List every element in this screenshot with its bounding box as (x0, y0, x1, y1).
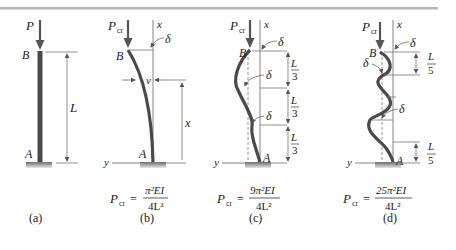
deflection-label: δ (266, 109, 272, 123)
top-label: B (116, 49, 124, 63)
critical-load-formula: P cr = π²EI 4L² (109, 184, 168, 212)
load-label: P (229, 18, 238, 33)
svg-text:L: L (290, 57, 297, 69)
deflection-label: δ (410, 36, 416, 50)
svg-text:L: L (427, 140, 434, 152)
top-rule (0, 7, 438, 10)
svg-text:cr: cr (352, 199, 359, 208)
svg-text:P: P (109, 191, 118, 206)
length-label: L (69, 100, 77, 115)
caption-d: (d) (383, 211, 397, 225)
svg-text:L: L (427, 50, 434, 62)
segment-label: L 3 (290, 131, 299, 156)
svg-text:=: = (363, 192, 370, 206)
deflection-label: δ (266, 68, 272, 82)
load-arrow-icon (246, 20, 255, 48)
top-label: B (22, 48, 30, 62)
svg-text:5: 5 (428, 64, 434, 76)
svg-text:3: 3 (292, 107, 298, 119)
load-sub: cr (371, 27, 378, 36)
panel-b: x y P cr B A δ v x P cr = (103, 18, 191, 225)
deflection-label: δ (363, 56, 369, 70)
panel-d: x y P cr B A δ δ δ L 5 (342, 18, 436, 225)
top-label: B (239, 46, 247, 60)
svg-text:=: = (237, 192, 244, 206)
bottom-label: A (24, 147, 33, 161)
svg-text:3: 3 (292, 70, 298, 82)
svg-text:P: P (216, 191, 225, 206)
svg-text:25π²EI: 25π²EI (376, 184, 408, 196)
v-label: v (146, 74, 151, 86)
svg-text:3: 3 (292, 144, 298, 156)
deflection-label: δ (278, 35, 284, 49)
buckled-column (369, 52, 393, 163)
axis-x-label: x (263, 18, 269, 30)
segment-label: L 5 (427, 50, 436, 76)
bottom-label: A (395, 154, 404, 168)
svg-text:L: L (290, 131, 297, 143)
bottom-label: A (138, 147, 147, 161)
x-dimension-label: x (184, 116, 191, 130)
load-label: P (361, 19, 370, 34)
svg-text:cr: cr (226, 199, 233, 208)
fixed-base (26, 162, 52, 168)
load-arrow-icon (36, 20, 45, 50)
segment-label: L 3 (290, 94, 299, 119)
straight-column (38, 51, 43, 163)
axis-y-label: y (103, 156, 109, 168)
svg-text:π²EI: π²EI (145, 184, 166, 196)
load-arrow-icon (124, 20, 133, 48)
svg-text:5: 5 (428, 154, 434, 166)
top-label: B (369, 46, 377, 60)
svg-text:=: = (130, 192, 137, 206)
axis-x-label: x (396, 18, 402, 30)
axis-y-label: y (346, 156, 352, 168)
svg-text:cr: cr (119, 199, 126, 208)
deflection-label: δ (399, 102, 405, 116)
load-label: P (107, 18, 116, 33)
segment-label: L 5 (427, 140, 436, 166)
column-buckling-figure: P B A L (a) x y P cr B A (0, 0, 456, 250)
buckled-column (236, 50, 260, 163)
load-sub: cr (117, 26, 124, 35)
caption-b: (b) (140, 211, 154, 225)
panel-a: P B A L (a) (22, 18, 78, 225)
caption-a: (a) (29, 211, 42, 225)
load-label: P (25, 18, 34, 33)
axis-x-label: x (156, 18, 162, 30)
critical-load-formula: P cr = 9π²EI 4L² (216, 184, 280, 212)
svg-text:L: L (290, 94, 297, 106)
svg-text:9π²EI: 9π²EI (250, 184, 276, 196)
panel-c: x y P cr B A δ δ δ L 3 (213, 18, 299, 225)
critical-load-formula: P cr = 25π²EI 4L² (342, 184, 412, 212)
deflection-label: δ (165, 32, 171, 46)
svg-text:P: P (342, 191, 351, 206)
caption-c: (c) (249, 211, 262, 225)
segment-label: L 3 (290, 57, 299, 82)
load-sub: cr (239, 26, 246, 35)
axis-y-label: y (213, 156, 219, 168)
